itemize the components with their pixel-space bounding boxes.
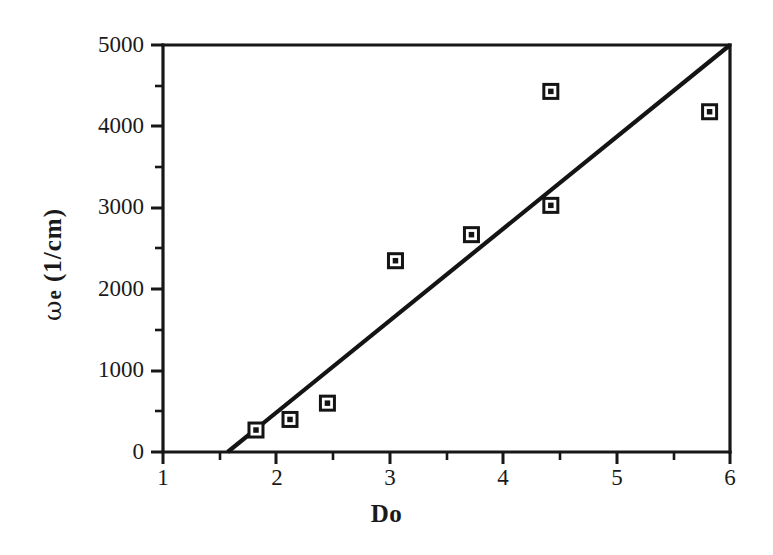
data-point-marker	[387, 252, 404, 269]
trend-line	[228, 45, 730, 452]
data-point-marker	[247, 422, 264, 439]
figure-root: ωe (1/cm) Do 5000 4000 3000 2000 1000 0 …	[0, 0, 773, 555]
data-point-marker	[319, 395, 336, 412]
axis-frame	[163, 45, 730, 452]
data-point-marker	[463, 226, 480, 243]
data-point-marker	[542, 197, 559, 214]
data-point-marker	[542, 83, 559, 100]
data-point-marker	[282, 411, 299, 428]
trend-line-segment	[228, 45, 730, 452]
data-point-marker	[701, 103, 718, 120]
x-axis-ticks	[163, 452, 730, 464]
plot-canvas	[0, 0, 773, 555]
data-point-markers	[247, 83, 718, 439]
y-axis-ticks	[151, 45, 163, 452]
